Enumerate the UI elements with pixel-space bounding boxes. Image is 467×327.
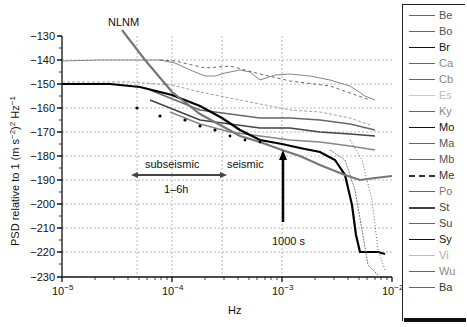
legend-marker-icon [409,207,435,209]
period-band-label: 1–6h [164,183,188,195]
seismic-label: seismic [227,158,264,170]
legend-item-ba: Ba [407,279,467,296]
legend-marker-icon [409,287,435,288]
x-axis-label: Hz [228,304,241,316]
data-series [62,30,392,275]
svg-text:−130: −130 [30,30,55,42]
legend-marker-icon [409,127,435,128]
svg-text:−170: −170 [30,126,55,138]
legend-marker-icon [409,175,435,177]
legend-marker-icon [409,111,435,112]
svg-text:10−5: 10−5 [52,283,74,297]
legend-item-be: Be [407,7,467,24]
svg-text:10−3: 10−3 [272,283,294,297]
legend-item-me: Me [407,167,467,184]
series-dashed-mid [62,82,370,125]
svg-text:−140: −140 [30,54,55,66]
legend-item-es: Es [407,87,467,104]
legend-item-po: Po [407,183,467,200]
svg-text:−180: −180 [30,150,55,162]
psd-chart: −130 −140 −150 −160 −170 −180 −190 −200 … [0,0,467,327]
svg-text:−150: −150 [30,78,55,90]
legend-item-bo: Bo [407,23,467,40]
legend-marker-icon [409,271,435,272]
y-axis-label: PSD relative to 1 (m s−2)2 Hz−1 [8,96,21,246]
legend-item-br: Br [407,39,467,56]
subseismic-label: subseismic [145,158,200,170]
legend-marker-icon [409,223,435,224]
legend-item-wu: Wu [407,263,467,280]
svg-text:−160: −160 [30,102,55,114]
svg-text:10−2: 10−2 [382,283,404,297]
legend-item-cb: Cb [407,71,467,88]
legend-item-ca: Ca [407,55,467,72]
legend-marker-icon [409,143,435,144]
legend-marker-icon [409,15,435,16]
nlnm-label: NLNM [108,16,139,28]
svg-text:−210: −210 [30,222,55,234]
legend-item-vi: Vi [407,247,467,264]
y-tick-labels: −130 −140 −150 −160 −170 −180 −190 −200 … [30,30,55,283]
svg-text:−230: −230 [30,271,55,283]
series-be-upper [62,60,375,100]
legend-marker-icon [409,79,435,80]
legend-marker-icon [409,191,435,192]
legend-item-mo: Mo [407,119,467,136]
legend-marker-icon [409,31,435,32]
legend-item-ky: Ky [407,103,467,120]
legend: Be Bo Br Ca Cb Es Ky Mo Ma Mb Me Po St S… [402,4,465,321]
thousand-s-label: 1000 s [272,235,306,247]
x-tick-labels: 10−5 10−4 10−3 10−2 [52,283,404,297]
series-st [350,140,385,270]
series-be-markers [160,60,370,100]
legend-item-sy: Sy [407,231,467,248]
series-band-1 [150,90,375,130]
legend-item-st: St [407,199,467,216]
legend-item-mb: Mb [407,151,467,168]
svg-text:−190: −190 [30,174,55,186]
svg-text:−220: −220 [30,246,55,258]
legend-item-ma: Ma [407,135,467,152]
svg-text:10−4: 10−4 [162,283,184,297]
legend-item-su: Su [407,215,467,232]
svg-text:−200: −200 [30,198,55,210]
series-we-cd029 [62,84,385,254]
legend-marker-icon [409,95,435,96]
legend-marker-icon [409,63,435,64]
legend-marker-icon [409,47,435,48]
legend-marker-icon [409,255,435,256]
legend-border [404,318,466,322]
legend-marker-icon [409,159,435,160]
legend-marker-icon [409,239,435,240]
